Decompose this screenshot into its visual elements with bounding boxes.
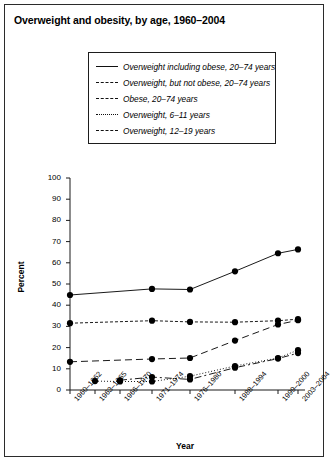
- data-point-marker: [67, 292, 73, 298]
- y-tick-label: 100: [37, 174, 61, 182]
- data-point-marker: [275, 250, 281, 256]
- series-lines: [70, 249, 298, 381]
- data-point-marker: [275, 356, 281, 362]
- x-axis-title: Year: [70, 441, 300, 451]
- series-line: [70, 249, 298, 295]
- y-tick-label: 10: [37, 365, 61, 373]
- y-tick-label: 60: [37, 259, 61, 267]
- series-line: [70, 320, 298, 362]
- data-point-marker: [232, 319, 238, 325]
- y-tick-label: 20: [37, 344, 61, 352]
- data-point-marker: [187, 286, 193, 292]
- data-point-marker: [149, 318, 155, 324]
- y-tick-label: 30: [37, 322, 61, 330]
- data-point-marker: [295, 246, 301, 252]
- data-point-marker: [232, 338, 238, 344]
- data-point-marker: [187, 355, 193, 361]
- data-point-marker: [232, 365, 238, 371]
- y-tick-label: 50: [37, 280, 61, 288]
- series-line: [70, 319, 298, 323]
- data-point-marker: [187, 319, 193, 325]
- series-markers: [67, 246, 301, 384]
- y-tick-label: 80: [37, 216, 61, 224]
- y-tick-label: 0: [37, 386, 61, 394]
- data-point-marker: [149, 356, 155, 362]
- y-axis-title: Percent: [16, 247, 26, 307]
- y-tick-label: 70: [37, 238, 61, 246]
- data-point-marker: [187, 376, 193, 382]
- data-point-marker: [149, 286, 155, 292]
- data-point-marker: [275, 321, 281, 327]
- data-point-marker: [67, 320, 73, 326]
- data-point-marker: [295, 317, 301, 323]
- data-point-marker: [67, 359, 73, 365]
- y-tick-label: 90: [37, 195, 61, 203]
- data-point-marker: [232, 268, 238, 274]
- data-point-marker: [295, 350, 301, 356]
- y-tick-label: 40: [37, 301, 61, 309]
